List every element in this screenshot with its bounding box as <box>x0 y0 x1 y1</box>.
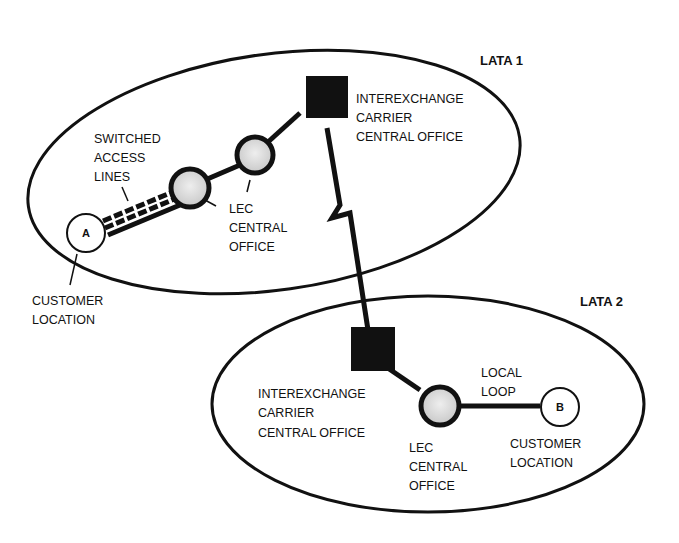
lec1-label-1: LEC <box>229 202 253 216</box>
trunk-lec-ixc1 <box>268 113 300 142</box>
ixc2-office-node[interactable] <box>351 327 395 371</box>
lec1-pointer-a <box>205 200 216 206</box>
local-loop-label-2: LOOP <box>481 385 516 399</box>
interlata-link <box>327 128 368 330</box>
customer-a-letter: A <box>82 227 90 239</box>
lec1-label-3: OFFICE <box>229 240 275 254</box>
customer-b-label-1: CUSTOMER <box>510 437 581 451</box>
switched-access-label-1: SWITCHED <box>94 132 161 146</box>
local-loop-label-1: LOCAL <box>481 366 522 380</box>
lata1-boundary <box>12 21 536 324</box>
switched-access-pointer <box>122 187 128 201</box>
customer-a-label-1: CUSTOMER <box>32 294 103 308</box>
lec2-label-1: LEC <box>409 441 433 455</box>
switched-access-label-3: LINES <box>94 170 130 184</box>
ixc2-label-1: INTEREXCHANGE <box>258 387 366 401</box>
customer-a-label-2: LOCATION <box>32 313 95 327</box>
lec1-central-office-node[interactable] <box>237 137 273 173</box>
lata2-label: LATA 2 <box>580 294 623 309</box>
trunk-lec-lec <box>205 165 240 180</box>
ixc1-label-1: INTEREXCHANGE <box>356 92 464 106</box>
lec1-pointer-b <box>247 180 250 192</box>
customer-b-node[interactable]: B <box>541 388 579 426</box>
ixc1-label-2: CARRIER <box>356 111 412 125</box>
ixc2-label-2: CARRIER <box>258 406 314 420</box>
customer-b-letter: B <box>556 401 564 413</box>
customer-a-node[interactable]: A <box>67 214 105 252</box>
lec1-access-office-node[interactable] <box>171 169 209 207</box>
lec2-office-node[interactable] <box>421 387 459 425</box>
ixc1-office-node[interactable] <box>306 76 348 118</box>
lec1-label-2: CENTRAL <box>229 221 287 235</box>
network-diagram: LATA 1 LATA 2 A CUSTOMER LOCATION SWITCH… <box>0 0 679 543</box>
customer-a-pointer <box>70 254 77 285</box>
switched-access-lines <box>103 191 180 235</box>
switched-access-label-2: ACCESS <box>94 151 145 165</box>
lata1-label: LATA 1 <box>480 53 523 68</box>
lec2-label-2: CENTRAL <box>409 460 467 474</box>
ixc2-label-3: CENTRAL OFFICE <box>258 426 365 440</box>
ixc1-label-3: CENTRAL OFFICE <box>356 130 463 144</box>
customer-b-label-2: LOCATION <box>510 456 573 470</box>
lec2-label-3: OFFICE <box>409 479 455 493</box>
